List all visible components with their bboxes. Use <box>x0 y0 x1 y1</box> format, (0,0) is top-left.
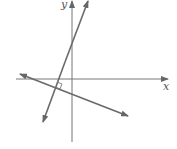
steep-line-lower <box>43 62 65 122</box>
coordinate-plane: y x <box>0 0 177 149</box>
steep-line <box>65 1 88 62</box>
shallow-line-left <box>20 74 74 95</box>
x-axis-label: x <box>163 80 170 93</box>
y-axis-label: y <box>60 0 68 11</box>
shallow-line <box>74 95 128 116</box>
